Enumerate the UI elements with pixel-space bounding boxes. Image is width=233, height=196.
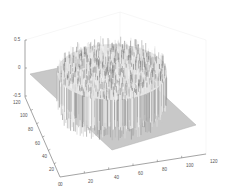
x-tick-label: 20 xyxy=(88,179,94,184)
x-tick-label: 0 xyxy=(60,182,63,187)
x-tick-label: 120 xyxy=(210,159,218,164)
z-tick-label: 0 xyxy=(18,65,21,70)
y-tick-label: 120 xyxy=(13,100,21,105)
y-tick-label: 100 xyxy=(20,113,28,118)
x-tick-label: 40 xyxy=(114,175,120,180)
x-tick-label: 60 xyxy=(138,171,144,176)
x-tick-label: 100 xyxy=(186,163,194,168)
x-tick-label: 80 xyxy=(162,167,168,172)
y-tick-label: 20 xyxy=(49,167,55,172)
z-tick-label: -0.5 xyxy=(13,93,21,98)
y-tick-label: 80 xyxy=(28,127,34,132)
y-tick-label: 40 xyxy=(42,154,48,159)
z-tick-label: 0.5 xyxy=(14,37,21,42)
spike-cylinder xyxy=(57,36,167,131)
surface-plot: 0.50-0.5120100806040200020406080100120 xyxy=(0,0,233,196)
y-tick-label: 60 xyxy=(35,141,41,146)
z-axis xyxy=(25,40,27,97)
